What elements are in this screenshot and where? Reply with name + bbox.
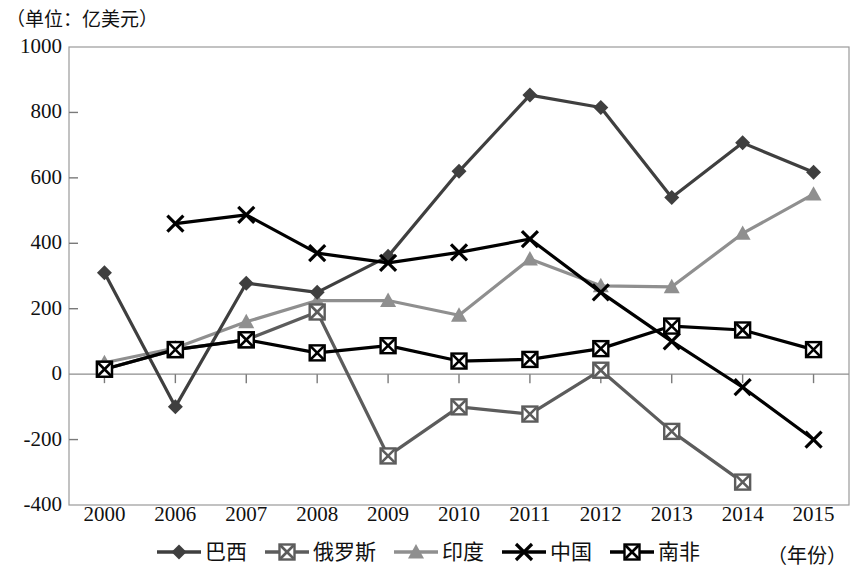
x-tick-label: 2015 xyxy=(777,504,851,525)
x-tick-label: 2010 xyxy=(422,504,496,525)
legend-label: 印度 xyxy=(442,542,484,563)
legend-label: 南非 xyxy=(658,542,700,563)
y-tick-label: 400 xyxy=(0,232,62,253)
x-axis-title: （年份） xyxy=(767,540,847,568)
square-x-marker xyxy=(264,544,310,560)
legend-item-1[interactable]: 俄罗斯 xyxy=(264,542,376,563)
triangle-marker xyxy=(393,544,439,560)
series-2 xyxy=(96,186,821,369)
square-x-marker xyxy=(609,544,655,560)
x-tick-label: 2007 xyxy=(209,504,283,525)
x-tick-label: 2008 xyxy=(280,504,354,525)
legend-item-4[interactable]: 南非 xyxy=(609,542,700,563)
y-tick-label: 200 xyxy=(0,298,62,319)
legend-label: 中国 xyxy=(550,542,592,563)
x-tick-label: 2009 xyxy=(351,504,425,525)
line-chart xyxy=(0,0,855,568)
chart-legend: 巴西俄罗斯印度中国南非 xyxy=(0,536,855,568)
y-tick-label: 0 xyxy=(0,363,62,384)
x-tick-label: 2006 xyxy=(138,504,212,525)
x-tick-label: 2014 xyxy=(706,504,780,525)
legend-item-2[interactable]: 印度 xyxy=(393,542,484,563)
x-marker xyxy=(501,544,547,560)
y-tick-label: 600 xyxy=(0,167,62,188)
x-tick-label: 2000 xyxy=(67,504,141,525)
legend-item-3[interactable]: 中国 xyxy=(501,542,592,563)
x-tick-label: 2012 xyxy=(564,504,638,525)
x-tick-label: 2013 xyxy=(635,504,709,525)
y-tick-label: -400 xyxy=(0,494,62,515)
y-tick-label: -200 xyxy=(0,429,62,450)
legend-label: 俄罗斯 xyxy=(313,542,376,563)
y-tick-label: 1000 xyxy=(0,36,62,57)
y-tick-label: 800 xyxy=(0,101,62,122)
legend-item-0[interactable]: 巴西 xyxy=(156,542,247,563)
diamond-marker xyxy=(156,544,202,560)
x-tick-label: 2011 xyxy=(493,504,567,525)
legend-label: 巴西 xyxy=(205,542,247,563)
plot-frame xyxy=(0,0,855,568)
